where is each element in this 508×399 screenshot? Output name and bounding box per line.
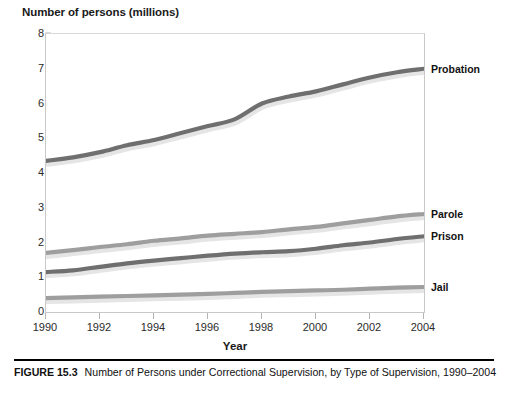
series-label-parole: Parole — [431, 208, 463, 220]
series-label-jail: Jail — [431, 281, 449, 293]
y-axis-tick-group: 012345678 — [14, 33, 44, 313]
y-tick-label: 0 — [20, 305, 44, 317]
figure-container: Number of persons (millions) 012345678 1… — [0, 0, 508, 399]
caption-divider — [14, 359, 494, 361]
x-tick-mark — [315, 313, 316, 319]
y-tick-label: 8 — [20, 27, 44, 39]
chart-lines-svg — [46, 34, 424, 312]
x-tick-mark — [261, 313, 262, 319]
x-tick-label: 2002 — [346, 321, 392, 333]
x-tick-mark — [207, 313, 208, 319]
series-label-probation: Probation — [431, 63, 480, 75]
y-tick-label: 3 — [20, 201, 44, 213]
x-tick-label: 1992 — [76, 321, 122, 333]
figure-caption-text: Number of Persons under Correctional Sup… — [85, 366, 496, 378]
plot-area — [45, 33, 425, 313]
x-tick-label: 1996 — [184, 321, 230, 333]
x-axis-tick-group: 19901992199419961998200020022004 — [45, 313, 425, 321]
series-line-prison — [46, 236, 424, 272]
y-tick-label: 1 — [20, 270, 44, 282]
x-tick-label: 1990 — [22, 321, 68, 333]
x-tick-mark — [99, 313, 100, 319]
series-label-prison: Prison — [431, 230, 464, 242]
y-tick-label: 4 — [20, 166, 44, 178]
x-tick-label: 2000 — [292, 321, 338, 333]
x-axis-title: Year — [45, 340, 425, 352]
x-tick-mark — [153, 313, 154, 319]
y-axis-title: Number of persons (millions) — [22, 6, 179, 18]
y-tick-label: 2 — [20, 236, 44, 248]
y-tick-label: 6 — [20, 97, 44, 109]
x-tick-mark — [369, 313, 370, 319]
x-tick-label: 1994 — [130, 321, 176, 333]
x-tick-mark — [423, 313, 424, 319]
y-tick-label: 7 — [20, 62, 44, 74]
x-tick-label: 2004 — [400, 321, 446, 333]
x-tick-mark — [45, 313, 46, 319]
series-line-shadow-parole — [47, 217, 424, 256]
y-tick-label: 5 — [20, 131, 44, 143]
figure-caption: FIGURE 15.3Number of Persons under Corre… — [14, 365, 498, 380]
figure-caption-label: FIGURE 15.3 — [14, 366, 78, 378]
x-tick-label: 1998 — [238, 321, 284, 333]
